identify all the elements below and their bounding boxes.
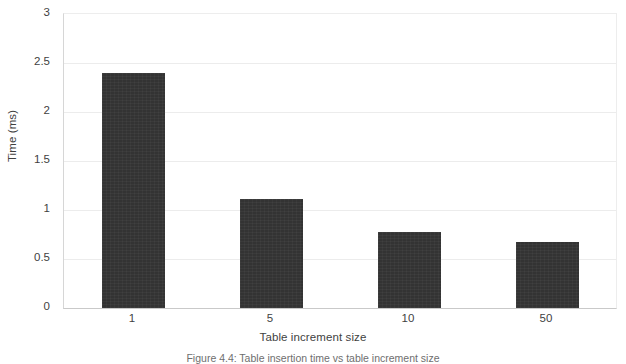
x-axis-tick-label: 5 bbox=[267, 312, 273, 324]
bar bbox=[240, 199, 303, 308]
figure-container: Time (ms) 00.511.522.53 151050 Table inc… bbox=[0, 0, 626, 364]
x-axis-title: Table increment size bbox=[0, 331, 626, 343]
y-axis-tick-label: 0 bbox=[44, 301, 50, 313]
chart-plot-wrapper: Time (ms) 00.511.522.53 151050 Table inc… bbox=[0, 0, 626, 330]
y-axis-tick-label: 2 bbox=[44, 105, 50, 117]
y-axis-tick-label: 0.5 bbox=[34, 252, 50, 264]
y-axis-tick-label: 2.5 bbox=[34, 56, 50, 68]
y-axis-tick-labels: 00.511.522.53 bbox=[0, 0, 56, 330]
x-axis-tick-labels: 151050 bbox=[63, 312, 615, 332]
y-axis-tick-label: 1.5 bbox=[34, 154, 50, 166]
x-axis-tick-label: 1 bbox=[129, 312, 135, 324]
plot-area bbox=[63, 13, 617, 309]
x-axis-tick-label: 10 bbox=[402, 312, 415, 324]
bar bbox=[378, 232, 441, 308]
figure-caption: Figure 4.4: Table insertion time vs tabl… bbox=[0, 352, 626, 364]
gridline bbox=[64, 308, 616, 309]
y-axis-tick-label: 1 bbox=[44, 203, 50, 215]
x-axis-tick-label: 50 bbox=[540, 312, 553, 324]
y-axis-tick-label: 3 bbox=[44, 7, 50, 19]
bar bbox=[516, 242, 579, 308]
bars-group bbox=[64, 14, 616, 308]
bar bbox=[102, 73, 165, 308]
